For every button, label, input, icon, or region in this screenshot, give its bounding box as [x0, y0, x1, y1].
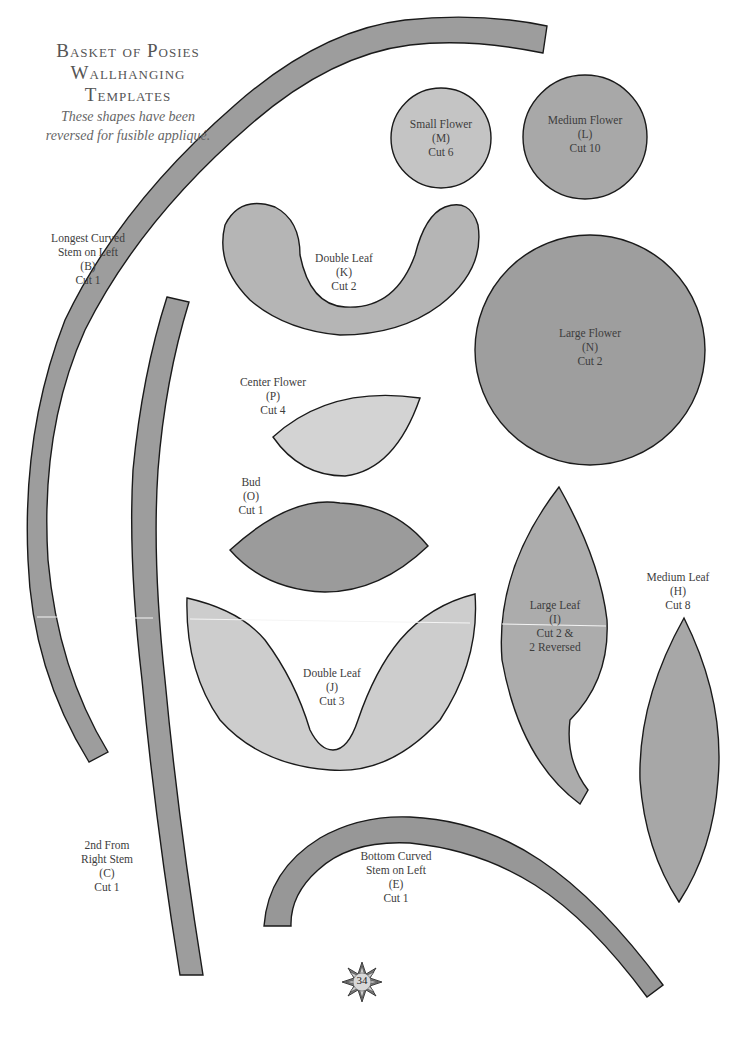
label-line: Cut 10	[548, 141, 622, 155]
label-large-leaf: Large Leaf (I) Cut 2 & 2 Reversed	[529, 598, 580, 654]
label-double-leaf-j: Double Leaf (J) Cut 3	[303, 666, 361, 708]
label-line: Medium Leaf	[647, 570, 710, 584]
template-page: Basket of Posies Wallhanging Templates T…	[0, 0, 731, 1041]
title-line-2: Wallhanging	[18, 62, 238, 84]
page-number: 34	[342, 974, 382, 986]
label-line: Large Leaf	[529, 598, 580, 612]
page-number-badge: 34	[342, 962, 382, 1002]
label-medium-flower: Medium Flower (L) Cut 10	[548, 113, 622, 155]
label-line: Longest Curved	[51, 231, 125, 245]
label-line: Bottom Curved	[360, 849, 431, 863]
label-line: (M)	[410, 131, 472, 145]
label-line: Cut 1	[360, 891, 431, 905]
label-center-flower: Center Flower (P) Cut 4	[240, 375, 306, 417]
label-line: 2nd From	[81, 838, 133, 852]
medium-leaf-shape	[640, 618, 719, 902]
label-line: (N)	[559, 340, 621, 354]
label-line: Cut 8	[647, 598, 710, 612]
label-medium-leaf: Medium Leaf (H) Cut 8	[647, 570, 710, 612]
label-line: (P)	[240, 389, 306, 403]
label-line: (O)	[238, 489, 263, 503]
label-line: Center Flower	[240, 375, 306, 389]
label-line: Cut 1	[238, 503, 263, 517]
title-line-3: Templates	[18, 84, 238, 106]
label-line: Cut 2 &	[529, 626, 580, 640]
label-line: Cut 3	[303, 694, 361, 708]
label-large-flower: Large Flower (N) Cut 2	[559, 326, 621, 368]
label-small-flower: Small Flower (M) Cut 6	[410, 117, 472, 159]
label-line: (L)	[548, 127, 622, 141]
label-line: Bud	[238, 475, 263, 489]
title-block: Basket of Posies Wallhanging Templates T…	[18, 40, 238, 144]
subtitle-line-2: reversed for fusible appliqué.	[18, 127, 238, 144]
label-stem-c: 2nd From Right Stem (C) Cut 1	[81, 838, 133, 894]
title-line-1: Basket of Posies	[18, 40, 238, 62]
label-line: Cut 2	[315, 279, 373, 293]
label-line: (H)	[647, 584, 710, 598]
label-line: Cut 1	[81, 880, 133, 894]
label-line: Double Leaf	[315, 251, 373, 265]
label-line: (K)	[315, 265, 373, 279]
label-bud: Bud (O) Cut 1	[238, 475, 263, 517]
subtitle-line-1: These shapes have been	[18, 108, 238, 125]
label-line: (C)	[81, 866, 133, 880]
label-line: (J)	[303, 680, 361, 694]
label-line: (B)	[51, 259, 125, 273]
label-stem-b: Longest Curved Stem on Left (B) Cut 1	[51, 231, 125, 287]
label-line: 2 Reversed	[529, 640, 580, 654]
label-stem-e: Bottom Curved Stem on Left (E) Cut 1	[360, 849, 431, 905]
label-line: Double Leaf	[303, 666, 361, 680]
label-line: Stem on Left	[51, 245, 125, 259]
label-line: Medium Flower	[548, 113, 622, 127]
label-line: (I)	[529, 612, 580, 626]
label-line: Cut 1	[51, 273, 125, 287]
label-line: Cut 2	[559, 354, 621, 368]
label-double-leaf-k: Double Leaf (K) Cut 2	[315, 251, 373, 293]
label-line: Stem on Left	[360, 863, 431, 877]
stem-e-shape	[264, 817, 663, 997]
label-line: Right Stem	[81, 852, 133, 866]
label-line: Large Flower	[559, 326, 621, 340]
label-line: Cut 6	[410, 145, 472, 159]
label-line: Cut 4	[240, 403, 306, 417]
label-line: Small Flower	[410, 117, 472, 131]
label-line: (E)	[360, 877, 431, 891]
